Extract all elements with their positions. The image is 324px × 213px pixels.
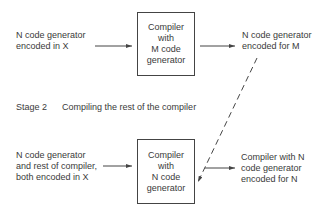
connectors (0, 0, 324, 213)
feedback-dashed-arrow (198, 58, 257, 182)
